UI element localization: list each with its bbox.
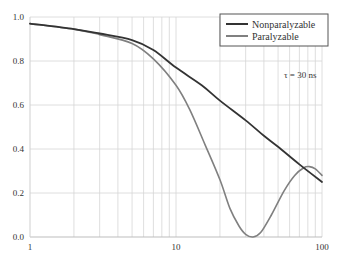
x-tick-label: 10 <box>172 242 182 252</box>
x-tick-label: 100 <box>315 242 329 252</box>
y-tick-label: 0.2 <box>13 188 24 198</box>
legend-label-nonparalyzable: Nonparalyzable <box>252 19 316 30</box>
tick-labels: 0.00.20.40.60.81.0110100 <box>13 12 330 252</box>
grid <box>30 17 322 237</box>
tau-annotation: τ = 30 ns <box>284 70 317 80</box>
x-tick-label: 1 <box>28 242 33 252</box>
legend: NonparalyzableParalyzable <box>220 14 328 46</box>
y-tick-label: 1.0 <box>13 12 25 22</box>
chart: 0.00.20.40.60.81.0110100 NonparalyzableP… <box>0 0 339 265</box>
y-tick-label: 0.4 <box>13 144 25 154</box>
y-tick-label: 0.8 <box>13 56 25 66</box>
legend-label-paralyzable: Paralyzable <box>252 31 299 42</box>
y-tick-label: 0.6 <box>13 100 25 110</box>
y-tick-label: 0.0 <box>13 232 25 242</box>
